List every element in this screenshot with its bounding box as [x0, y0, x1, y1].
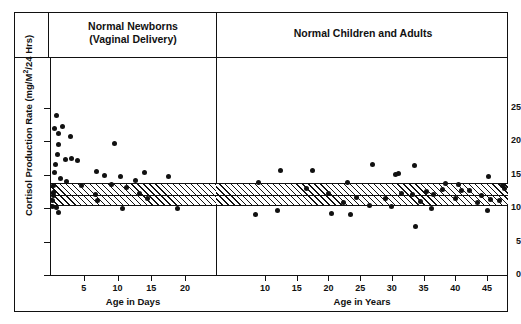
data-point — [475, 200, 480, 205]
x-tick-label: 35 — [409, 283, 439, 293]
data-point — [94, 169, 99, 174]
data-point — [102, 173, 107, 178]
data-point — [459, 188, 464, 193]
data-point — [112, 141, 117, 146]
data-point — [256, 180, 261, 185]
data-point — [341, 200, 346, 205]
x-tick-label: 10 — [103, 283, 133, 293]
x-tick-label: 5 — [69, 283, 99, 293]
x-axis-line-newborns — [50, 275, 216, 276]
data-point — [95, 198, 100, 203]
data-point — [54, 113, 59, 118]
data-point — [429, 206, 434, 211]
y-tick-label: 0 — [479, 269, 521, 279]
x-tick — [487, 275, 488, 281]
cortisol-production-rate-chart: Normal Newborns (Vaginal Delivery) Norma… — [0, 0, 521, 324]
x-tick-label: 15 — [282, 283, 312, 293]
panel-divider-line — [216, 57, 217, 275]
x-tick-label: 15 — [136, 283, 166, 293]
data-point — [166, 174, 171, 179]
x-tick — [328, 275, 329, 281]
data-point — [52, 170, 57, 175]
data-point — [64, 179, 69, 184]
y-tick-label: 25 — [479, 102, 521, 112]
x-tick-label: 10 — [250, 283, 280, 293]
x-tick-label: 45 — [472, 283, 502, 293]
y-tick — [44, 242, 51, 243]
data-point — [348, 212, 353, 217]
x-tick-label: 20 — [313, 283, 343, 293]
data-point — [75, 158, 80, 163]
panel-title-newborns: Normal Newborns (Vaginal Delivery) — [52, 20, 214, 46]
y-tick-label: 5 — [479, 236, 521, 246]
panel-title-newborns-line2: (Vaginal Delivery) — [52, 33, 214, 46]
x-tick — [297, 275, 298, 281]
y-axis-title: Cortisol Production Rate (mg/M2/24 Hrs) — [22, 36, 34, 216]
header-panel-divider — [216, 12, 217, 58]
x-tick — [118, 275, 119, 281]
y-tick — [44, 175, 51, 176]
data-point — [58, 176, 63, 181]
data-point — [431, 192, 436, 197]
x-tick-label: 40 — [440, 283, 470, 293]
x-tick — [392, 275, 393, 281]
x-axis-title-newborns: Age in Days — [50, 296, 216, 307]
data-point — [137, 191, 142, 196]
x-tick — [360, 275, 361, 281]
x-tick — [151, 275, 152, 281]
x-axis-line-children-adults — [216, 275, 508, 276]
data-point — [326, 191, 331, 196]
x-tick — [84, 275, 85, 281]
x-tick-label: 30 — [377, 283, 407, 293]
data-point — [55, 152, 60, 157]
data-point — [175, 206, 180, 211]
x-axis-title-children-adults: Age in Years — [216, 296, 508, 307]
data-point — [63, 157, 68, 162]
panel-title-children-adults: Normal Children and Adults — [220, 27, 506, 40]
header-rule — [14, 57, 508, 58]
data-point — [133, 178, 138, 183]
y-tick — [44, 141, 51, 142]
data-point — [56, 131, 61, 136]
data-point — [52, 126, 57, 131]
normal-range-mean-line-children-adults — [216, 195, 508, 196]
data-point — [485, 208, 490, 213]
data-point — [253, 212, 258, 217]
data-point — [304, 186, 309, 191]
x-tick — [455, 275, 456, 281]
data-point — [399, 191, 404, 196]
data-point — [60, 124, 65, 129]
data-point — [418, 199, 423, 204]
data-point — [142, 170, 147, 175]
data-point — [51, 193, 56, 198]
data-point — [488, 197, 493, 202]
normal-range-mean-line-newborns — [51, 195, 216, 196]
x-tick-label: 25 — [345, 283, 375, 293]
data-point — [393, 172, 398, 177]
data-point — [497, 198, 502, 203]
x-tick — [265, 275, 266, 281]
x-tick — [185, 275, 186, 281]
data-point — [53, 162, 58, 167]
y-tick-label: 15 — [479, 169, 521, 179]
data-point — [79, 183, 84, 188]
data-point — [51, 183, 56, 188]
panel-title-newborns-line1: Normal Newborns — [52, 20, 214, 33]
x-tick — [424, 275, 425, 281]
y-tick — [44, 275, 51, 276]
data-point — [412, 163, 417, 168]
y-tick-label: 20 — [479, 135, 521, 145]
x-tick-label: 20 — [170, 283, 200, 293]
header-left-divider — [48, 12, 49, 58]
data-point — [370, 162, 375, 167]
y-tick — [44, 108, 51, 109]
